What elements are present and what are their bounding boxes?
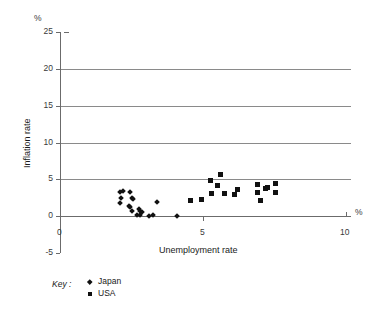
data-point-japan xyxy=(154,199,160,205)
data-point-usa xyxy=(199,197,204,202)
data-point-japan xyxy=(130,196,136,202)
data-point-japan xyxy=(137,212,143,218)
scatter-chart: % Inflation rate 25 20 15 10 5 0 -5 0 5 … xyxy=(0,0,378,314)
data-point-usa xyxy=(273,181,278,186)
data-point-usa xyxy=(209,191,214,196)
legend-title: Key : xyxy=(52,279,71,289)
data-point-usa xyxy=(258,198,263,203)
data-point-japan xyxy=(127,189,133,195)
data-point-usa xyxy=(255,190,260,195)
data-point-japan xyxy=(174,213,180,219)
data-point-japan xyxy=(117,200,123,206)
data-point-usa xyxy=(222,191,227,196)
data-point-usa xyxy=(265,185,270,190)
data-point-usa xyxy=(232,192,237,197)
data-point-japan xyxy=(129,208,135,214)
square-marker-icon xyxy=(88,292,92,296)
data-point-usa xyxy=(273,190,278,195)
data-point-usa xyxy=(208,178,213,183)
legend-label-japan: Japan xyxy=(98,276,121,287)
legend-label-usa: USA xyxy=(98,288,115,299)
data-point-usa xyxy=(255,182,260,187)
data-point-usa xyxy=(235,187,240,192)
data-points-layer xyxy=(0,0,378,314)
data-point-usa xyxy=(188,198,193,203)
data-point-usa xyxy=(218,172,223,177)
data-point-usa xyxy=(215,183,220,188)
